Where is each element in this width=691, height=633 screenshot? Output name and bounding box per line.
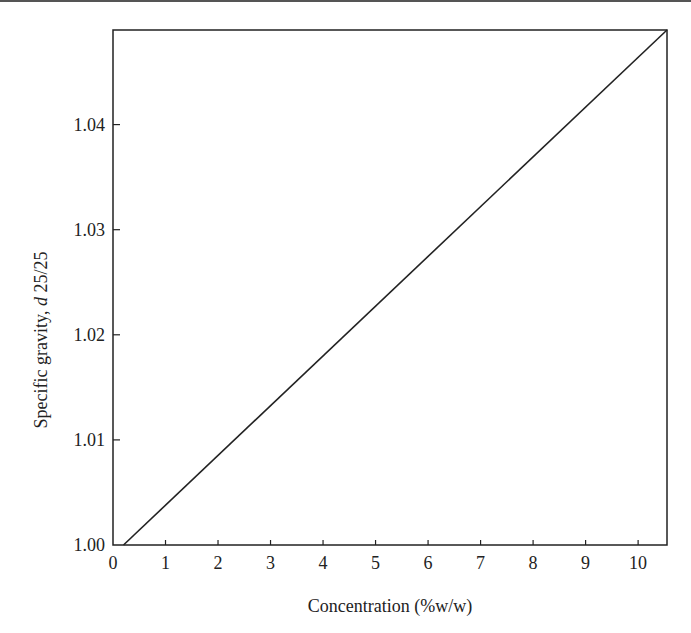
x-tick-label: 1 [161, 553, 170, 573]
y-tick-label: 1.04 [74, 115, 106, 135]
x-tick-label: 4 [319, 553, 328, 573]
x-tick-label: 3 [266, 553, 275, 573]
chart: 012345678910 1.001.011.021.031.04 Concen… [0, 0, 691, 633]
y-tick-label: 1.01 [74, 430, 106, 450]
x-tick-label: 6 [424, 553, 433, 573]
data-line [124, 30, 667, 545]
x-tick-label: 0 [109, 553, 118, 573]
x-axis-label: Concentration (%w/w) [308, 596, 472, 617]
x-tick-label: 5 [371, 553, 380, 573]
y-axis-label: Specific gravity, d 25/25 [31, 252, 51, 429]
y-tick-label: 1.03 [74, 220, 106, 240]
x-tick-label: 8 [529, 553, 538, 573]
y-tick-label: 1.02 [74, 325, 106, 345]
x-tick-label: 10 [629, 553, 647, 573]
x-tick-label: 2 [214, 553, 223, 573]
x-tick-label: 9 [581, 553, 590, 573]
plot-frame [113, 30, 667, 545]
x-tick-label: 7 [476, 553, 485, 573]
y-tick-label: 1.00 [74, 535, 106, 555]
